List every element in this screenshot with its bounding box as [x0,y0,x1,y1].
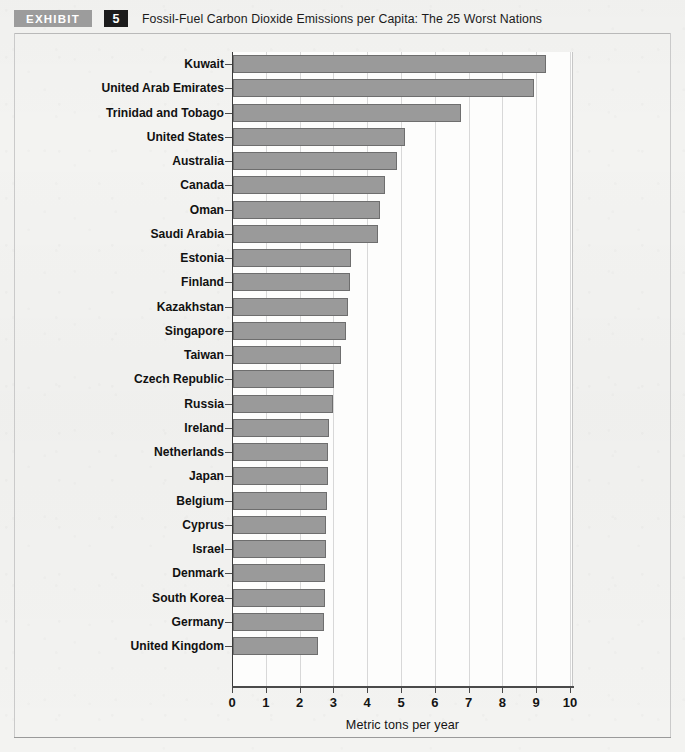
y-tick [225,161,232,162]
y-tick [225,137,232,138]
bar-row: Japan [0,464,685,488]
y-tick [225,210,232,211]
bar-row: South Korea [0,586,685,610]
bar [233,395,333,413]
category-label: Kazakhstan [4,295,224,319]
y-tick [225,501,232,502]
category-label: Canada [4,173,224,197]
category-label: Czech Republic [4,367,224,391]
x-tick [570,686,571,693]
bar-row: Kazakhstan [0,295,685,319]
bar [233,589,325,607]
bar-row: Germany [0,610,685,634]
bar-row: United Arab Emirates [0,76,685,100]
category-label: Germany [4,610,224,634]
y-tick [225,404,232,405]
bar-row: Kuwait [0,52,685,76]
category-label: Saudi Arabia [4,222,224,246]
bar [233,152,397,170]
x-tick [536,686,537,693]
bar [233,637,318,655]
bar-row: Trinidad and Tobago [0,101,685,125]
category-label: United States [4,125,224,149]
x-tick [502,686,503,693]
category-label: Singapore [4,319,224,343]
x-tick [232,686,233,693]
bar-row: United States [0,125,685,149]
bar-row: Estonia [0,246,685,270]
y-tick [225,573,232,574]
bar [233,201,380,219]
y-tick [225,428,232,429]
bar [233,176,385,194]
bar [233,322,346,340]
exhibit-title: Fossil-Fuel Carbon Dioxide Emissions per… [142,12,542,26]
category-label: Denmark [4,561,224,585]
bar [233,540,326,558]
category-label: Australia [4,149,224,173]
bar-row: Czech Republic [0,367,685,391]
y-tick [225,452,232,453]
bar [233,516,326,534]
exhibit-number: 5 [104,10,128,27]
bar [233,225,378,243]
y-tick [225,379,232,380]
category-label: South Korea [4,586,224,610]
bar [233,55,546,73]
bar-row: Israel [0,537,685,561]
bar-row: Netherlands [0,440,685,464]
y-tick [225,355,232,356]
bar [233,128,405,146]
exhibit-header: EXHIBIT 5 Fossil-Fuel Carbon Dioxide Emi… [14,7,542,30]
category-label: Trinidad and Tobago [4,101,224,125]
bar [233,613,324,631]
bar [233,346,341,364]
category-label: Russia [4,392,224,416]
category-label: Japan [4,464,224,488]
bar [233,79,534,97]
y-tick [225,476,232,477]
category-label: Oman [4,198,224,222]
bar [233,443,328,461]
x-tick [401,686,402,693]
y-tick [225,258,232,259]
x-tick [469,686,470,693]
x-tick [300,686,301,693]
bar [233,564,325,582]
y-tick [225,331,232,332]
y-tick [225,113,232,114]
bar [233,249,351,267]
bar [233,370,334,388]
bar [233,492,327,510]
y-tick [225,88,232,89]
category-label: United Arab Emirates [4,76,224,100]
x-tick [435,686,436,693]
bar-row: Oman [0,198,685,222]
x-tick [367,686,368,693]
category-label: Netherlands [4,440,224,464]
y-tick [225,646,232,647]
y-tick [225,525,232,526]
footer-divider [14,737,671,738]
bar-row: Saudi Arabia [0,222,685,246]
y-tick [225,64,232,65]
bar-chart: KuwaitUnited Arab EmiratesTrinidad and T… [0,36,685,736]
bar [233,419,329,437]
y-tick [225,234,232,235]
bar-row: Singapore [0,319,685,343]
x-tick [333,686,334,693]
y-tick [225,282,232,283]
exhibit-tag: EXHIBIT [14,10,92,27]
bar-row: Australia [0,149,685,173]
bar [233,104,461,122]
bar-row: Taiwan [0,343,685,367]
bar [233,273,350,291]
bar [233,467,328,485]
x-tick-label: 10 [550,695,590,710]
exhibit-page: EXHIBIT 5 Fossil-Fuel Carbon Dioxide Emi… [0,0,685,752]
category-label: Estonia [4,246,224,270]
y-tick [225,307,232,308]
bar-row: Russia [0,392,685,416]
x-axis-line [232,686,574,688]
category-label: Ireland [4,416,224,440]
